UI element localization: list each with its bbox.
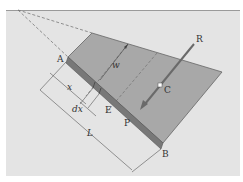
label-E: E [105, 105, 112, 115]
label-A: A [56, 54, 64, 64]
label-R: R [196, 34, 203, 44]
label-w: w [112, 60, 120, 70]
label-x: x [67, 82, 72, 92]
label-B: B [162, 149, 169, 159]
label-dx: dx [72, 104, 83, 114]
inclined-plate-diagram: A B C E P R w x dx L [0, 0, 243, 182]
label-C: C [164, 85, 171, 95]
label-P: P [124, 118, 130, 128]
centroid-C-marker [158, 83, 162, 87]
label-L: L [86, 128, 93, 138]
